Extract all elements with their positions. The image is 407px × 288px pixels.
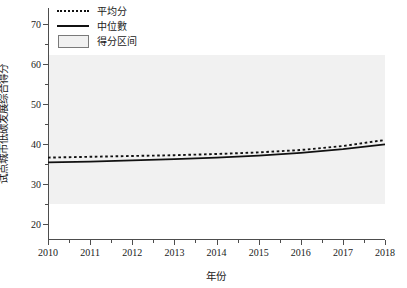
x-axis-title: 年份 (206, 268, 226, 283)
legend-item-median: 中位數 (56, 19, 137, 32)
y-tick-label-30: 30 (31, 179, 41, 190)
x-tick-label-2017: 2017 (333, 247, 353, 258)
x-tick-2018 (385, 240, 386, 245)
x-tick-label-2012: 2012 (122, 247, 142, 258)
x-tick-minor (195, 240, 196, 243)
x-tick-minor (69, 240, 70, 243)
x-tick-2014 (217, 240, 218, 245)
x-tick-minor (322, 240, 323, 243)
x-tick-2013 (174, 240, 175, 245)
legend-label-band: 得分区间 (97, 33, 137, 48)
y-tick-label-70: 70 (31, 19, 41, 30)
x-tick-label-2011: 2011 (80, 247, 100, 258)
x-tick-minor (280, 240, 281, 243)
solid-line-key (56, 19, 90, 32)
x-tick-2017 (343, 240, 344, 245)
x-tick-label-2010: 2010 (38, 247, 58, 258)
x-tick-2012 (132, 240, 133, 245)
x-tick-label-2013: 2013 (164, 247, 184, 258)
legend-item-band: 得分区间 (56, 34, 137, 47)
x-tick-minor (364, 240, 365, 243)
x-tick-2010 (48, 240, 49, 245)
x-tick-label-2015: 2015 (249, 247, 269, 258)
x-tick-2015 (259, 240, 260, 245)
chart-figure: 203040506070 201020112012201320142015201… (0, 0, 407, 288)
x-tick-2011 (90, 240, 91, 245)
x-tick-label-2016: 2016 (291, 247, 311, 258)
x-tick-2016 (301, 240, 302, 245)
legend-label-median: 中位數 (97, 18, 127, 33)
y-tick-label-20: 20 (31, 219, 41, 230)
dotted-line-key (56, 4, 90, 17)
x-tick-minor (153, 240, 154, 243)
x-tick-minor (111, 240, 112, 243)
mean-line (48, 140, 385, 158)
legend-item-mean: 平均分 (56, 4, 137, 17)
legend-label-mean: 平均分 (97, 3, 127, 18)
y-tick-label-40: 40 (31, 139, 41, 150)
x-tick-minor (238, 240, 239, 243)
x-tick-label-2018: 2018 (375, 247, 395, 258)
chart-legend: 平均分 中位數 得分区间 (56, 4, 137, 47)
band-patch-key (56, 34, 90, 47)
y-tick-label-60: 60 (31, 59, 41, 70)
y-tick-label-50: 50 (31, 99, 41, 110)
x-tick-label-2014: 2014 (207, 247, 227, 258)
y-axis-title: 试点城市低碳发展综合得分 (0, 64, 10, 184)
